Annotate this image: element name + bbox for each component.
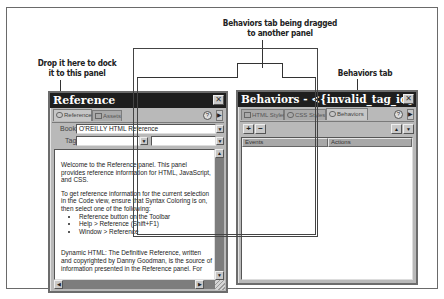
drag-outline-inner xyxy=(137,77,316,235)
reference-para-source: Dynamic HTML: The Definitive Reference, … xyxy=(61,249,212,272)
behaviors-icon xyxy=(329,111,336,117)
drag-outline-edge xyxy=(282,77,316,78)
move-up-button[interactable]: ▲ xyxy=(391,124,402,134)
assets-icon xyxy=(95,113,102,119)
callout-behaviors-tab: Behaviors tab xyxy=(332,68,398,78)
horizontal-scrollbar[interactable] xyxy=(54,280,215,289)
tab-behaviors[interactable]: Behaviors xyxy=(326,108,368,120)
tag-select[interactable] xyxy=(76,136,140,146)
tab-reference[interactable]: Reference xyxy=(53,109,92,121)
drag-outline-edge xyxy=(282,63,283,78)
callout-line: Behaviors tab being dragged xyxy=(223,18,338,28)
tab-label: Behaviors xyxy=(337,111,364,117)
close-icon[interactable]: ✕ xyxy=(403,94,414,104)
callout-line: it to this panel xyxy=(32,68,122,78)
reference-icon xyxy=(56,112,63,118)
scroll-right-icon[interactable]: ▶ xyxy=(195,280,204,289)
panel-menu-icon[interactable]: ▶ xyxy=(407,109,414,120)
tab-label: Assets xyxy=(103,113,121,119)
callout-dragging: Behaviors tab being dragged to another p… xyxy=(223,18,338,38)
scroll-left-icon[interactable]: ◀ xyxy=(54,280,63,289)
callout-line: Drop it here to dock xyxy=(32,58,122,68)
drag-outline-edge xyxy=(237,63,238,78)
drag-outline-edge xyxy=(137,77,238,78)
reference-title: Reference xyxy=(53,94,115,107)
tab-label: Reference xyxy=(64,112,92,118)
scroll-down-icon[interactable]: ▼ xyxy=(215,271,224,280)
help-icon[interactable]: ? xyxy=(394,110,403,119)
column-header-actions[interactable]: Actions xyxy=(328,138,412,147)
drag-outline-edge xyxy=(237,63,283,64)
callout-line: Behaviors tab xyxy=(332,68,398,78)
tab-assets[interactable]: Assets xyxy=(92,110,122,121)
resize-grip-icon[interactable] xyxy=(215,280,225,290)
move-down-button[interactable]: ▼ xyxy=(403,124,414,134)
callout-drop-here: Drop it here to dock it to this panel xyxy=(32,58,122,78)
callout-line: to another panel xyxy=(223,28,338,38)
